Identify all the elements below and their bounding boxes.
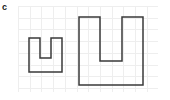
grid-background bbox=[0, 0, 170, 100]
figure-panel: c bbox=[0, 0, 170, 100]
panel-label: c bbox=[2, 2, 7, 13]
grid-lines bbox=[18, 6, 158, 92]
small-u-shape bbox=[29, 38, 62, 72]
shape-layer bbox=[29, 17, 143, 85]
